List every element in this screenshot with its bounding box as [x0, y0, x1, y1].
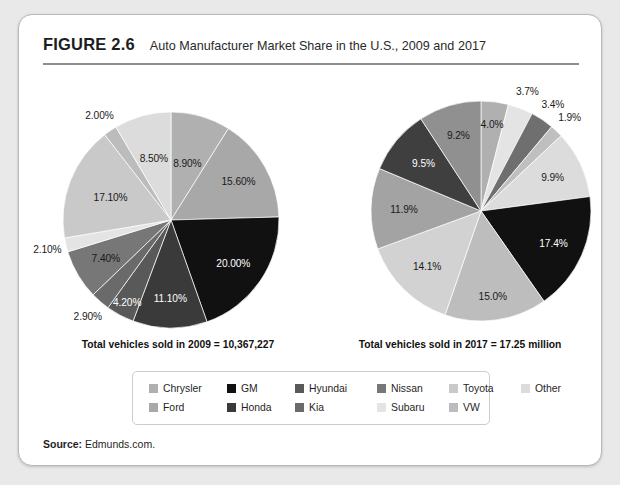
pie-slice-label: 17.4%	[539, 237, 567, 248]
pie-slice-label: 14.1%	[413, 261, 441, 272]
legend-item-nissan[interactable]: Nissan	[377, 383, 423, 394]
pie-slice-label: 17.10%	[94, 191, 128, 202]
pie-canvas-2009: 8.90%15.60%20.00%11.10%4.20%2.90%7.40%2.…	[37, 77, 319, 335]
legend-item-label: Subaru	[391, 402, 425, 413]
legend-swatch-icon	[377, 384, 386, 393]
legend-item-toyota[interactable]: Toyota	[449, 383, 494, 394]
legend-item-ford[interactable]: Ford	[149, 402, 184, 413]
pie-slice-label: 4.0%	[481, 118, 504, 129]
legend-swatch-icon	[521, 384, 530, 393]
figure-card: FIGURE 2.6 Auto Manufacturer Market Shar…	[18, 14, 602, 466]
legend-item-other[interactable]: Other	[521, 383, 561, 394]
figure-title: Auto Manufacturer Market Share in the U.…	[150, 39, 486, 53]
legend-swatch-icon	[449, 403, 458, 412]
pie-chart-2009: 8.90%15.60%20.00%11.10%4.20%2.90%7.40%2.…	[37, 77, 319, 335]
legend-swatch-icon	[227, 384, 236, 393]
legend-swatch-icon	[149, 384, 158, 393]
source-label: Source:	[43, 438, 82, 450]
legend-item-honda[interactable]: Honda	[227, 402, 272, 413]
pie-slice-label: 8.50%	[140, 152, 168, 163]
legend-item-label: Nissan	[391, 383, 423, 394]
header-divider	[43, 63, 579, 65]
pie-slice-label: 9.9%	[541, 172, 564, 183]
pie-slice-label: 7.40%	[92, 253, 120, 264]
pie-slice-label: 9.5%	[412, 158, 435, 169]
total-caption-2009: Total vehicles sold in 2009 = 10,367,227	[37, 339, 319, 350]
legend-swatch-icon	[227, 403, 236, 412]
legend-item-label: Kia	[309, 402, 324, 413]
pie-slice-label: 15.0%	[479, 291, 507, 302]
pie-slice-label: 15.60%	[222, 176, 256, 187]
legend-item-label: Toyota	[463, 383, 494, 394]
pie-slice-label: 8.90%	[173, 157, 201, 168]
legend-swatch-icon	[449, 384, 458, 393]
pie-slice-label: 2.10%	[33, 244, 61, 255]
source-text: Edmunds.com.	[85, 438, 155, 450]
legend-swatch-icon	[295, 384, 304, 393]
pie-slice-label: 20.00%	[216, 257, 250, 268]
figure-number: FIGURE 2.6	[43, 35, 135, 54]
figure-header: FIGURE 2.6 Auto Manufacturer Market Shar…	[43, 35, 579, 54]
legend-swatch-icon	[377, 403, 386, 412]
pie-slice-label: 3.4%	[541, 98, 564, 109]
legend-swatch-icon	[295, 403, 304, 412]
pie-canvas-2017: 4.0%3.7%3.4%1.9%9.9%17.4%15.0%14.1%11.9%…	[319, 77, 601, 335]
legend-item-vw[interactable]: VW	[449, 402, 480, 413]
pie-slice-label: 11.10%	[154, 292, 187, 303]
legend-item-hyundai[interactable]: Hyundai	[295, 383, 347, 394]
pie-slice-label: 1.9%	[558, 112, 581, 123]
pie-slice-label: 2.90%	[74, 310, 102, 321]
legend-item-label: Hyundai	[309, 383, 347, 394]
pie-slice-label: 3.7%	[516, 85, 539, 96]
legend-row: FordHondaKiaSubaruVW	[133, 398, 489, 417]
legend-item-label: Chrysler	[163, 383, 202, 394]
legend-row: ChryslerGMHyundaiNissanToyotaOther	[133, 379, 489, 398]
legend-item-kia[interactable]: Kia	[295, 402, 324, 413]
pie-chart-2017: 4.0%3.7%3.4%1.9%9.9%17.4%15.0%14.1%11.9%…	[319, 77, 601, 335]
legend-item-chrysler[interactable]: Chrysler	[149, 383, 202, 394]
legend-swatch-icon	[149, 403, 158, 412]
legend-item-gm[interactable]: GM	[227, 383, 258, 394]
legend-item-label: Ford	[163, 402, 184, 413]
legend-item-label: VW	[463, 402, 480, 413]
legend-item-label: Other	[535, 383, 561, 394]
legend-item-label: GM	[241, 383, 258, 394]
source-line: Source: Edmunds.com.	[43, 438, 155, 450]
pie-slice-label: 11.9%	[390, 204, 418, 215]
pie-slice-label: 4.20%	[113, 296, 141, 307]
pie-slice-label: 9.2%	[447, 130, 470, 141]
legend-item-subaru[interactable]: Subaru	[377, 402, 425, 413]
legend-item-label: Honda	[241, 402, 272, 413]
pie-slice-label: 2.00%	[85, 110, 113, 121]
legend: ChryslerGMHyundaiNissanToyotaOtherFordHo…	[132, 371, 490, 425]
total-caption-2017: Total vehicles sold in 2017 = 17.25 mill…	[319, 339, 601, 350]
